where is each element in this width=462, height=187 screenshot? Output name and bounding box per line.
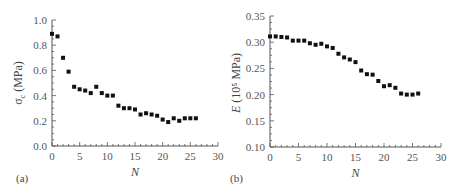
data-point (274, 34, 278, 38)
data-point (268, 34, 272, 38)
data-point (365, 72, 369, 76)
data-point (416, 92, 420, 96)
x-tick-label: 30 (436, 151, 448, 163)
data-point (354, 60, 358, 64)
data-point (78, 87, 82, 91)
x-tick-label: 25 (407, 151, 419, 163)
y-tick-label: 0.4 (33, 90, 47, 102)
y-axis-label: E (10⁵ MPa) (229, 53, 243, 114)
data-point (411, 93, 415, 97)
data-point (67, 70, 71, 74)
data-point (155, 114, 159, 118)
data-point (56, 34, 60, 38)
data-point (94, 85, 98, 89)
data-point (83, 89, 87, 93)
data-point (302, 39, 306, 43)
y-tick-label: 0.30 (246, 36, 266, 48)
panel-label: (a) (16, 172, 29, 185)
data-point (285, 35, 289, 39)
data-point (371, 73, 375, 77)
y-tick-label: 0.6 (33, 64, 47, 76)
data-point (331, 46, 335, 50)
data-point (342, 55, 346, 59)
data-point (100, 91, 104, 95)
x-tick-label: 0 (267, 151, 273, 163)
x-tick-label: 10 (322, 151, 334, 163)
x-tick-label: 0 (49, 150, 55, 162)
y-tick-label: 0.35 (246, 10, 266, 22)
data-point (122, 106, 126, 110)
panel-a-sigma-c-plot: 0510152025300.00.20.40.60.81.0Nσc (MPa)(… (11, 14, 224, 185)
data-point (279, 35, 283, 39)
data-point (183, 116, 187, 120)
data-point (405, 93, 409, 97)
y-tick-label: 0.15 (246, 115, 266, 127)
data-point (319, 42, 323, 46)
x-tick-label: 30 (213, 150, 225, 162)
data-point (177, 119, 181, 123)
data-point (72, 85, 76, 89)
x-tick-label: 10 (102, 150, 114, 162)
x-tick-label: 20 (157, 150, 169, 162)
data-point (61, 56, 65, 60)
panel-b-modulus-plot: 0510152025300.100.150.200.250.300.35NE (… (229, 10, 447, 185)
x-tick-label: 15 (350, 151, 362, 163)
y-tick-label: 1.0 (33, 14, 47, 26)
x-tick-label: 20 (379, 151, 391, 163)
x-axis-label: N (350, 166, 360, 180)
data-point (376, 79, 380, 83)
data-point (336, 52, 340, 56)
data-point (150, 113, 154, 117)
data-point (393, 86, 397, 90)
data-point (133, 107, 137, 111)
data-point (291, 39, 295, 43)
data-point (127, 106, 131, 110)
y-tick-label: 0.8 (33, 39, 47, 51)
y-axis-label: σc (MPa) (11, 61, 27, 105)
data-point (308, 41, 312, 45)
data-point (139, 113, 143, 117)
data-point (166, 120, 170, 124)
x-tick-label: 5 (77, 150, 83, 162)
data-point (50, 32, 54, 36)
data-point (116, 104, 120, 108)
data-point (144, 111, 148, 115)
data-point (314, 43, 318, 47)
data-point (111, 94, 115, 98)
data-point (325, 44, 329, 48)
x-tick-label: 25 (185, 150, 197, 162)
data-point (89, 91, 93, 95)
y-tick-label: 0.25 (246, 62, 266, 74)
data-point (359, 68, 363, 72)
figure: 0510152025300.00.20.40.60.81.0Nσc (MPa)(… (0, 0, 462, 187)
data-point (382, 84, 386, 88)
y-tick-label: 0.10 (246, 141, 266, 153)
data-point (297, 39, 301, 43)
data-point (172, 116, 176, 120)
data-point (194, 116, 198, 120)
data-point (399, 92, 403, 96)
data-point (105, 94, 109, 98)
x-axis-label: N (130, 165, 140, 179)
x-tick-label: 15 (130, 150, 142, 162)
data-point (161, 118, 165, 122)
data-point (388, 83, 392, 87)
panel-label: (b) (230, 172, 243, 185)
y-tick-label: 0.2 (33, 115, 47, 127)
data-point (348, 57, 352, 61)
figure-canvas: 0510152025300.00.20.40.60.81.0Nσc (MPa)(… (0, 0, 462, 187)
x-tick-label: 5 (296, 151, 302, 163)
y-tick-label: 0.0 (33, 140, 47, 152)
data-point (188, 116, 192, 120)
y-tick-label: 0.20 (246, 89, 266, 101)
